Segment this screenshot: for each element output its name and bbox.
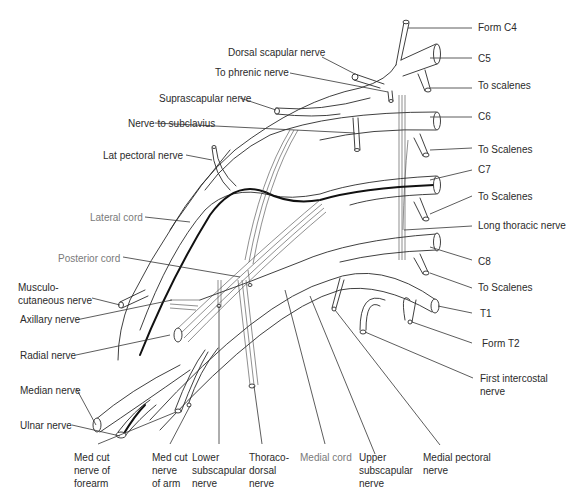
- label-nerve-to-subclavius: Nerve to subclavius: [128, 117, 215, 130]
- label-to-phrenic-nerve: To phrenic nerve: [215, 66, 289, 79]
- label-lat-pectoral-nerve: Lat pectoral nerve: [103, 149, 183, 162]
- label-radial-nerve: Radial nerve: [20, 349, 76, 362]
- label-upper-subscapular-nerve: Upper subscapular nerve: [359, 451, 413, 490]
- label-to-scalenes-1: To scalenes: [478, 79, 531, 92]
- c4-root: [396, 20, 409, 65]
- label-thoracodorsal-nerve: Thoraco- dorsal nerve: [249, 451, 289, 490]
- label-musculocutaneous-nerve: Musculo- cutaneous nerve: [18, 281, 92, 307]
- label-axillary-nerve: Axillary nerve: [20, 313, 80, 326]
- label-dorsal-scapular-nerve: Dorsal scapular nerve: [228, 46, 325, 59]
- label-to-scalenes-4: To Scalenes: [478, 281, 532, 294]
- label-med-cut-nerve-of-arm: Med cut nerve of arm: [152, 451, 188, 490]
- label-posterior-cord: Posterior cord: [58, 252, 120, 265]
- label-to-scalenes-3: To Scalenes: [478, 190, 532, 203]
- label-form-c4: Form C4: [478, 21, 517, 34]
- label-c7: C7: [478, 163, 491, 176]
- label-lower-subscapular-nerve: Lower subscapular nerve: [192, 451, 246, 490]
- label-long-thoracic-nerve: Long thoracic nerve: [478, 219, 566, 232]
- label-suprascapular-nerve: Suprascapular nerve: [159, 92, 251, 105]
- label-to-scalenes-2: To Scalenes: [478, 143, 532, 156]
- c8-root: [200, 233, 441, 300]
- label-medial-pectoral-nerve: Medial pectoral nerve: [423, 451, 491, 477]
- label-med-cut-nerve-of-forearm: Med cut nerve of forearm: [74, 451, 110, 490]
- t1-root: [150, 273, 439, 430]
- label-lateral-cord: Lateral cord: [90, 211, 143, 224]
- label-form-t2: Form T2: [482, 337, 520, 350]
- label-c6: C6: [478, 110, 491, 123]
- label-medial-cord: Medial cord: [300, 451, 352, 464]
- label-ulnar-nerve: Ulnar nerve: [20, 419, 72, 432]
- label-first-intercostal-nerve: First intercostal nerve: [480, 372, 548, 398]
- label-t1: T1: [480, 307, 492, 320]
- label-c5: C5: [478, 52, 491, 65]
- label-c8: C8: [478, 255, 491, 268]
- label-median-nerve: Median nerve: [20, 384, 81, 397]
